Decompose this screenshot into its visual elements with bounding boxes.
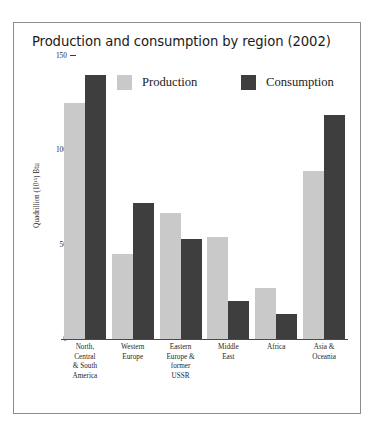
x-axis-label-line: & South: [57, 362, 113, 372]
bar-group: [207, 56, 249, 339]
bar-consumption[interactable]: [324, 115, 345, 340]
legend-swatch-production: [117, 75, 132, 90]
plot-area: Quadrillion (10¹⁵) Btu 050100150 North,C…: [14, 23, 360, 413]
bar-consumption[interactable]: [228, 301, 249, 339]
bar-consumption[interactable]: [276, 314, 297, 339]
legend-swatch-consumption: [241, 75, 256, 90]
bar-consumption[interactable]: [181, 239, 202, 339]
bar-series-container: [61, 56, 348, 339]
x-axis-label-line: USSR: [153, 372, 209, 382]
legend-label: Production: [142, 75, 197, 90]
x-axis-line: [61, 339, 348, 340]
bar-production[interactable]: [112, 254, 133, 339]
x-axis-label: Asia &Oceania: [296, 343, 352, 362]
bar-group: [255, 56, 297, 339]
legend-label: Consumption: [266, 75, 334, 90]
bar-production[interactable]: [255, 288, 276, 339]
bar-production[interactable]: [207, 237, 228, 339]
bar-consumption[interactable]: [85, 75, 106, 339]
x-axis-label-line: Asia &: [296, 343, 352, 353]
x-axis-label-line: America: [57, 372, 113, 382]
bar-consumption[interactable]: [133, 203, 154, 339]
bar-production[interactable]: [64, 103, 85, 339]
bar-group: [64, 56, 106, 339]
legend-item-consumption[interactable]: Consumption: [241, 75, 334, 90]
bar-production[interactable]: [160, 213, 181, 339]
x-axis-label-line: East: [201, 353, 257, 363]
x-axis-label-line: former: [153, 362, 209, 372]
bar-group: [303, 56, 345, 339]
bar-production[interactable]: [303, 171, 324, 339]
x-axis-label-line: Oceania: [296, 353, 352, 363]
bar-group: [112, 56, 154, 339]
legend-item-production[interactable]: Production: [117, 75, 197, 90]
bar-group: [160, 56, 202, 339]
x-axis-labels: North,Central& SouthAmericaWesternEurope…: [61, 343, 348, 409]
screenshot-root: Production and consumption by region (20…: [0, 0, 375, 434]
chart-card: Production and consumption by region (20…: [13, 22, 361, 414]
